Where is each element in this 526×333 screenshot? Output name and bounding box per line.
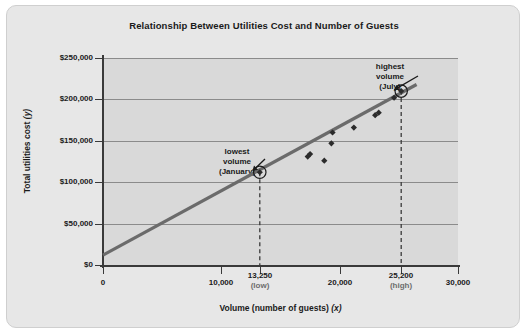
chart-card: Relationship Between Utilities Cost and … [6, 5, 520, 328]
data-point[interactable] [351, 124, 357, 130]
plot-wrapper: $250,000 $200,000 $150,000 $100,000 $50,… [7, 6, 521, 329]
data-point[interactable] [328, 140, 334, 146]
data-point[interactable] [321, 158, 327, 164]
data-layer [7, 6, 521, 329]
